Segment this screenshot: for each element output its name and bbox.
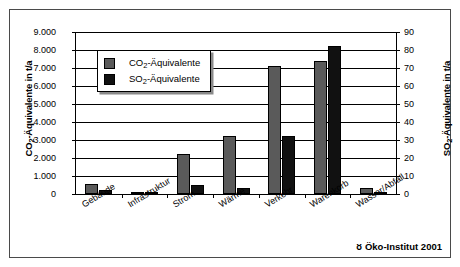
y-axis-left-tick-label: 1.000 (33, 171, 56, 181)
legend-label-so2-main: SO (129, 73, 143, 84)
y-axis-right-tick (396, 140, 400, 141)
x-axis-tick (122, 194, 123, 198)
y-axis-left-tick (72, 50, 76, 51)
y-axis-right-tick-label: 80 (404, 45, 414, 55)
y-axis-right-tick (396, 194, 400, 195)
legend-item-so2: SO2-Äquivalente (104, 71, 200, 87)
footer-attribution: ᴕ Öko-Institut 2001 (356, 241, 442, 252)
y-axis-right-tick-label: 0 (404, 189, 409, 199)
co2-swatch-icon (104, 58, 115, 69)
y-axis-right-tick-label: 70 (404, 63, 414, 73)
y-axis-right-tick (396, 32, 400, 33)
y-axis-right-tick (396, 68, 400, 69)
y-axis-right-tick-label: 50 (404, 99, 414, 109)
x-axis-tick (167, 194, 168, 198)
x-axis-tick (213, 194, 214, 198)
y-axis-left-tick-label: 6.000 (33, 81, 56, 91)
chart-legend: CO2-Äquivalente SO2-Äquivalente (97, 50, 211, 92)
y-axis-left-title-rest: -Äquivalente in t/a (23, 61, 34, 139)
y-axis-left-tick-label: 8.000 (33, 45, 56, 55)
y-axis-right-tick (396, 50, 400, 51)
y-axis-left-tick-label: 3.000 (33, 135, 56, 145)
y-axis-right-tick (396, 104, 400, 105)
y-axis-right-title: SO2-Äquivalente in t/a (441, 24, 454, 194)
y-axis-left-tick-label: 2.000 (33, 153, 56, 163)
legend-label-co2-rest: -Äquivalente (147, 57, 200, 68)
y-axis-left-tick (72, 176, 76, 177)
y-axis-left-tick (72, 86, 76, 87)
y-axis-left-tick-label: 4.000 (33, 117, 56, 127)
y-axis-right-title-main: SO (441, 143, 452, 156)
y-axis-right-tick (396, 158, 400, 159)
y-axis-left-title-main: CO (23, 143, 34, 157)
gridline (76, 158, 396, 159)
x-axis-tick (305, 194, 306, 198)
gridline (76, 176, 396, 177)
bar-so2 (328, 46, 341, 194)
y-axis-right-title-sub: 2 (445, 139, 454, 143)
y-axis-right-tick (396, 86, 400, 87)
footer-text: Öko-Institut 2001 (365, 241, 442, 252)
y-axis-left-tick-label: 9.000 (33, 27, 56, 37)
legend-label-co2-main: CO (129, 57, 143, 68)
chart-page: CO2-Äquivalente in t/a SO2-Äquivalente i… (0, 0, 460, 267)
gridline (76, 32, 396, 33)
y-axis-right-tick-label: 30 (404, 135, 414, 145)
legend-label-so2-rest: -Äquivalente (147, 73, 200, 84)
legend-label-co2: CO2-Äquivalente (129, 57, 200, 70)
oeko-institut-logo-icon: ᴕ (356, 241, 362, 252)
y-axis-right-tick-label: 20 (404, 153, 414, 163)
y-axis-left-tick (72, 32, 76, 33)
gridline (76, 140, 396, 141)
y-axis-right-tick (396, 122, 400, 123)
x-axis-tick (350, 194, 351, 198)
y-axis-right-tick-label: 40 (404, 117, 414, 127)
y-axis-left-tick (72, 122, 76, 123)
bar-co2 (177, 154, 190, 194)
y-axis-left-tick (72, 158, 76, 159)
gridline (76, 104, 396, 105)
y-axis-left-tick-label: 7.000 (33, 63, 56, 73)
so2-swatch-icon (104, 74, 115, 85)
legend-label-so2: SO2-Äquivalente (129, 73, 200, 86)
gridline (76, 122, 396, 123)
y-axis-left-tick-label: 5.000 (33, 99, 56, 109)
legend-item-co2: CO2-Äquivalente (104, 55, 200, 71)
y-axis-right-tick-label: 90 (404, 27, 414, 37)
chart-outer-frame: CO2-Äquivalente in t/a SO2-Äquivalente i… (9, 9, 451, 258)
y-axis-right-title-rest: -Äquivalente in t/a (441, 61, 452, 139)
x-axis-tick (259, 194, 260, 198)
bar-co2 (223, 136, 236, 194)
y-axis-left-tick (72, 194, 76, 195)
y-axis-left-tick (72, 68, 76, 69)
y-axis-left-tick-label: 0 (51, 189, 56, 199)
y-axis-left-tick (72, 104, 76, 105)
y-axis-right-tick-label: 60 (404, 81, 414, 91)
bar-co2 (314, 61, 327, 194)
bar-co2 (268, 66, 281, 194)
y-axis-left-tick (72, 140, 76, 141)
